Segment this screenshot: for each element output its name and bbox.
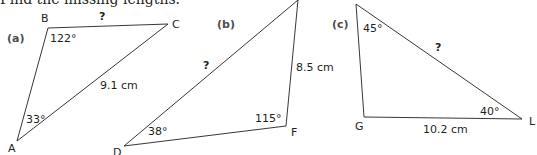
angle-d-label: 38° <box>148 126 168 137</box>
vertex-c-label: C <box>172 19 180 30</box>
side-bc-unknown: ? <box>99 11 105 22</box>
vertex-f-label: F <box>291 127 297 138</box>
side-gl-length: 10.2 cm <box>423 124 468 135</box>
vertex-l-label: L <box>529 116 535 127</box>
angle-l-label: 40° <box>480 106 500 117</box>
side-kl-unknown: ? <box>435 42 441 53</box>
angle-k-label: 45° <box>363 23 383 34</box>
angle-a-label: 33° <box>26 114 46 125</box>
side-de-unknown: ? <box>203 60 209 71</box>
vertex-g-label: G <box>355 121 364 132</box>
vertex-b-label: B <box>41 13 49 24</box>
side-ef-length: 8.5 cm <box>296 62 334 73</box>
part-a-label: (a) <box>7 33 24 44</box>
vertex-a-label: A <box>8 143 16 154</box>
side-ac-length: 9.1 cm <box>100 80 138 91</box>
part-b-label: (b) <box>217 19 235 30</box>
angle-f-label: 115° <box>255 113 282 124</box>
vertex-d-label: D <box>113 147 121 155</box>
angle-b-label: 122° <box>50 33 77 44</box>
part-c-label: (c) <box>332 19 349 30</box>
